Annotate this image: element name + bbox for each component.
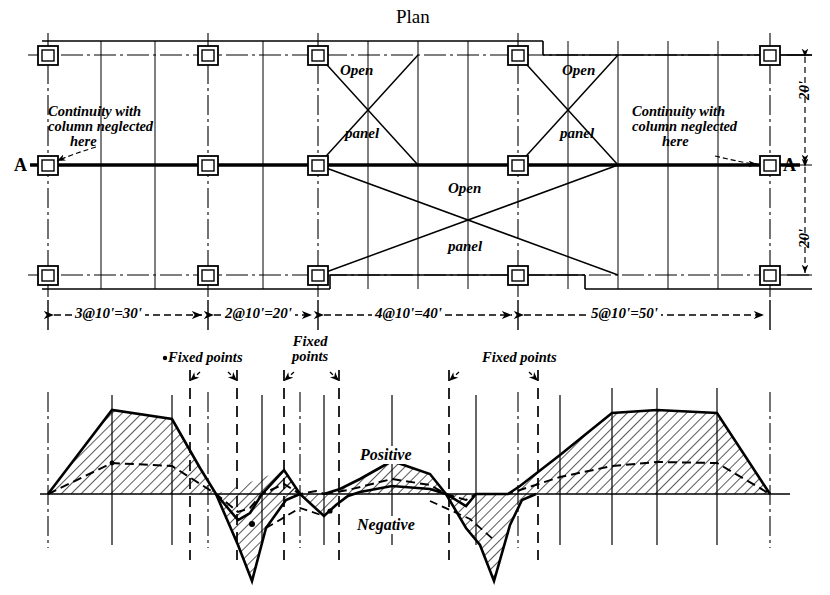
note-left-line1: Continuity with — [48, 104, 153, 119]
column-symbol — [308, 46, 328, 65]
column-symbol — [38, 156, 58, 175]
fixed-points-label-1: Fixed points — [168, 349, 243, 366]
note-right-line3: here — [662, 134, 737, 149]
column-symbol — [38, 46, 58, 65]
structural-diagram — [0, 0, 830, 595]
column-symbol — [760, 46, 780, 65]
label-open-upper-right: Open — [562, 62, 595, 79]
axis-label-A-right: A — [783, 155, 796, 176]
column-symbol — [508, 266, 528, 285]
negative-label: Negative — [355, 516, 417, 534]
page-title: Plan — [396, 6, 430, 28]
vertical-dim-upper: 20' — [796, 81, 813, 100]
note-continuity-right: Continuity with column neglected here — [632, 104, 737, 149]
label-open-lower: Open — [448, 180, 481, 197]
positive-label: Positive — [358, 446, 414, 464]
note-left-line3: here — [70, 134, 153, 149]
label-panel-lower: panel — [448, 238, 482, 255]
figure-canvas: Plan A A Continuity with column neglecte… — [0, 0, 830, 595]
axis-label-A-left: A — [14, 155, 27, 176]
dimension-span-2: 2@10'=20' — [222, 305, 295, 322]
label-open-upper-left: Open — [340, 62, 373, 79]
fixed-points-label-2: Fixed points — [292, 334, 328, 364]
note-left-line2: column neglected — [48, 119, 153, 134]
dimension-span-4: 5@10'=50' — [588, 305, 661, 322]
column-symbol — [308, 266, 328, 285]
note-right-line1: Continuity with — [632, 104, 737, 119]
fixed-points-label-2-line2: points — [292, 349, 328, 364]
column-symbol — [198, 266, 218, 285]
column-symbol — [308, 156, 328, 175]
column-symbol — [508, 156, 528, 175]
note-continuity-left: Continuity with column neglected here — [48, 104, 153, 149]
column-symbol — [760, 156, 780, 175]
background — [0, 0, 830, 595]
column-symbol — [38, 266, 58, 285]
fixed-points-label-3: Fixed points — [482, 349, 557, 366]
column-symbol — [198, 46, 218, 65]
dimension-span-1: 3@10'=30' — [72, 305, 145, 322]
label-panel-upper-right: panel — [560, 125, 594, 142]
label-panel-upper-left: panel — [345, 125, 379, 142]
column-symbol — [760, 266, 780, 285]
column-symbol — [508, 46, 528, 65]
fixed-points-label-2-line1: Fixed — [292, 334, 328, 349]
dimension-span-3: 4@10'=40' — [372, 305, 445, 322]
note-right-line2: column neglected — [632, 119, 737, 134]
vertical-dim-lower: 20' — [796, 229, 813, 248]
column-symbol — [198, 156, 218, 175]
